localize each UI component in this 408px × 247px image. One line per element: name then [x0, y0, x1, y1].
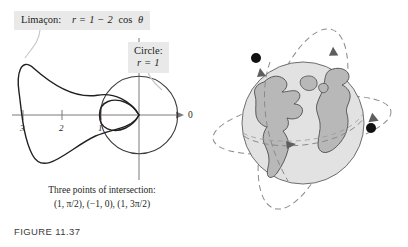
intersection-note-line2: (1, π/2), (−1, 0), (1, 3π/2)	[0, 198, 204, 212]
intersection-note-line1: Three points of intersection:	[0, 184, 204, 198]
circle-equation-equals: =	[144, 57, 152, 68]
figure-caption-left: FIGURE 11.37	[14, 226, 80, 237]
circle-label-equation: r = 1	[134, 57, 163, 69]
limacon-equation-a: 1	[89, 14, 94, 25]
intersection-note: Three points of intersection: (1, π/2), …	[0, 184, 204, 212]
satellite-right	[366, 123, 376, 133]
satellite-upper-left	[251, 53, 261, 63]
circle-callout-leader	[148, 72, 162, 90]
polar-orbit-arrowhead	[328, 47, 341, 60]
limacon-equation-b: 2	[108, 14, 113, 25]
limacon-equation-theta: θ	[138, 14, 143, 25]
limacon-label-box: Limaçon: r = 1 − 2 cos θ	[14, 11, 150, 30]
island-shape-b	[319, 83, 329, 92]
limacon-curve	[18, 64, 139, 163]
limacon-label-name: Limaçon:	[21, 14, 61, 25]
polar-axis	[12, 112, 184, 119]
globe-orbits-graphic	[204, 0, 408, 247]
circle-label-box: Circle: r = 1	[128, 42, 169, 73]
limacon-equation-r: r	[72, 14, 76, 25]
limacon-equation-cos: cos	[118, 14, 132, 25]
axis-tick-label-2: 2	[59, 123, 64, 133]
circle-label-name: Circle:	[134, 45, 163, 57]
figure-panel-right: FIGURE 11.38	[204, 0, 408, 247]
polar-orbit-arrowhead-descend	[257, 68, 266, 77]
island-shape-a	[300, 76, 317, 91]
limacon-callout-leader	[25, 30, 40, 58]
polar-axis-label: 0	[188, 110, 193, 120]
circle-equation-r: r	[137, 57, 141, 68]
figure-panel-left: 3 2 1 0 Limaçon: r = 1 − 2 cos θ Circle:…	[0, 0, 204, 247]
limacon-equation-minus: −	[97, 14, 105, 25]
circle-equation-value: 1	[154, 57, 159, 68]
limacon-equation-equals: =	[79, 14, 87, 25]
